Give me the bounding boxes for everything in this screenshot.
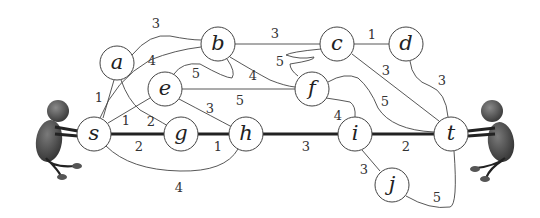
weight-b-e: 5 [192,66,200,81]
edge-c-t [352,54,439,121]
left-figure-body [33,118,65,163]
weight-s-g: 2 [135,139,143,154]
right-puller-figure [468,100,517,182]
node-label-t: t [447,121,456,145]
weight-a-b: 3 [152,16,160,31]
left-puller-figure [33,100,82,180]
weight-h-i: 3 [302,139,310,154]
node-label-h: h [239,121,253,145]
node-a: a [100,46,134,80]
weight-d-t: 3 [438,73,446,88]
edge-j-t [406,151,455,208]
weight-a-s: 1 [95,90,103,105]
weight-b-f: 4 [249,68,257,83]
weight-j-t: 5 [433,190,441,205]
left-figure-head [47,100,69,122]
node-d: d [389,27,423,61]
edge-b-f [230,57,295,87]
weight-g-h: 1 [214,139,222,154]
node-e: e [148,72,182,106]
node-s: s [77,117,111,151]
right-figure-body [485,120,516,163]
node-h: h [229,117,263,151]
node-t: t [434,117,468,151]
weight-s-h: 4 [175,180,183,195]
weight-s-e: 1 [122,113,130,128]
right-figure-foot [470,166,480,172]
left-figure-foot [72,163,82,169]
node-label-e: e [159,76,171,100]
flow-network-diagram: 3 1 2 4 1 3 5 4 5 1 3 3 5 3 5 4 2 1 4 3 … [0,0,540,218]
edge-d-t [410,61,448,117]
edge-a-s [103,80,114,118]
weight-c-t: 3 [382,63,390,78]
left-figure-foot [57,174,67,180]
edge-b-e [174,59,233,78]
weight-i-t: 2 [402,139,410,154]
node-label-s: s [89,121,100,145]
node-label-d: d [399,31,412,55]
weight-a-g: 2 [147,114,155,129]
weight-f-i: 4 [334,108,342,123]
node-j: j [375,168,409,202]
node-f: f [295,72,329,106]
node-label-i: i [352,121,359,145]
weight-s-b: 4 [148,53,156,68]
node-i: i [338,117,372,151]
node-label-a: a [111,50,124,74]
weight-c-f: 5 [276,54,284,69]
weight-e-f: 5 [236,93,244,108]
weight-e-h: 3 [206,101,214,116]
weight-b-c: 3 [271,26,279,41]
right-figure-head [481,100,503,122]
node-label-b: b [211,31,224,55]
right-figure-foot [480,176,490,182]
weight-i-j: 3 [360,162,368,177]
node-g: g [164,117,198,151]
weight-f-t: 5 [381,94,389,109]
nodes: a b c d e f s g h i t j [77,27,468,202]
edge-a-b [132,36,201,55]
node-label-c: c [331,31,343,55]
node-label-g: g [174,121,187,145]
weight-c-d: 1 [368,27,376,42]
node-b: b [201,27,235,61]
right-figure-legs [476,158,505,178]
node-c: c [320,27,354,61]
